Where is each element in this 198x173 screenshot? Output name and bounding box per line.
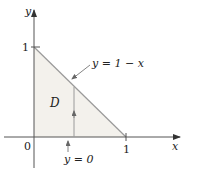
y-tick-label: 1: [22, 41, 29, 54]
x-tick-label: 1: [123, 143, 130, 156]
origin-label: 0: [24, 140, 31, 153]
hypotenuse-pointer-arrow-icon: [72, 65, 90, 79]
hypotenuse-label: y = 1 − x: [91, 57, 145, 70]
x-axis-label: x: [172, 140, 179, 153]
region-label: D: [49, 96, 60, 110]
lower-bound-label: y = 0: [63, 153, 93, 166]
y-axis-label: y: [24, 5, 32, 18]
region-diagram: y x 1 1 0 D y = 1 − x y = 0: [0, 0, 198, 173]
